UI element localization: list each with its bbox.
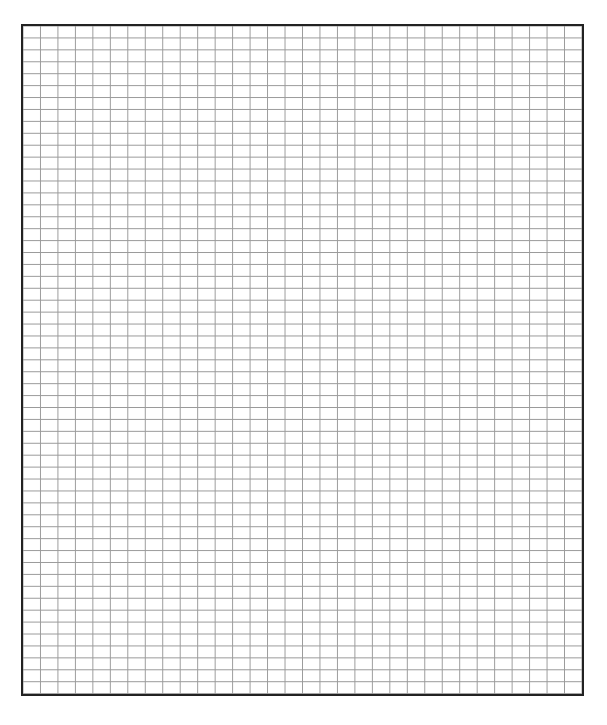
graph-paper-sheet	[21, 24, 584, 696]
grid-lines	[23, 26, 582, 694]
